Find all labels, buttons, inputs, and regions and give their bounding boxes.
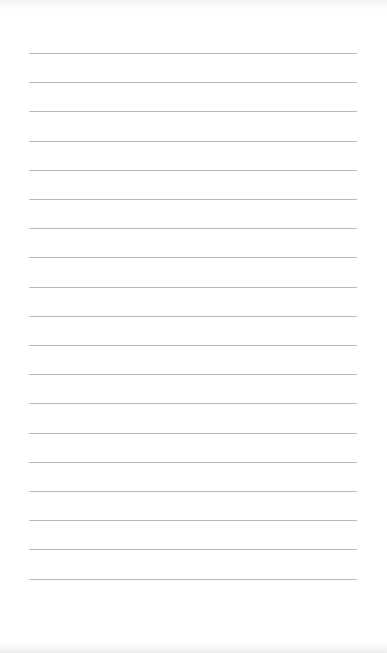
ruled-line [29,345,357,346]
ruled-line [29,549,357,550]
ruled-line [29,433,357,434]
ruled-line [29,257,357,258]
ruled-line [29,491,357,492]
ruled-line [29,287,357,288]
ruled-line [29,199,357,200]
ruled-line [29,53,357,54]
ruled-line [29,316,357,317]
ruled-line [29,82,357,83]
ruled-line [29,520,357,521]
lined-paper-page [0,0,387,653]
ruled-line [29,403,357,404]
ruled-line [29,462,357,463]
ruled-line [29,228,357,229]
ruled-line [29,111,357,112]
ruled-line [29,579,357,580]
ruled-line [29,170,357,171]
ruled-line [29,141,357,142]
ruled-line [29,374,357,375]
